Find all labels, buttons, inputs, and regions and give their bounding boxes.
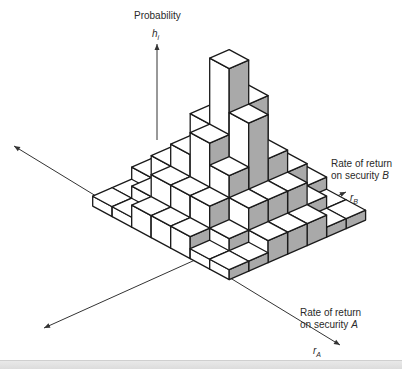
- r-a-arrow-icon: [334, 340, 340, 345]
- x-axis-symbol: rA: [313, 345, 321, 361]
- z-axis-line: [155, 44, 160, 140]
- z-axis-symbol: hi: [152, 28, 159, 44]
- z-axis-label: Probability: [134, 10, 181, 22]
- y-axis-symbol: rB: [350, 192, 358, 208]
- x-axis-label: Rate of return on security A: [300, 307, 361, 331]
- z-axis-arrow-icon: [155, 44, 160, 50]
- page-bottom-edge: [0, 360, 402, 369]
- bars: [93, 50, 366, 280]
- r-a-neg-arrow-icon: [14, 146, 20, 151]
- y-axis-label: Rate of return on security B: [331, 158, 392, 182]
